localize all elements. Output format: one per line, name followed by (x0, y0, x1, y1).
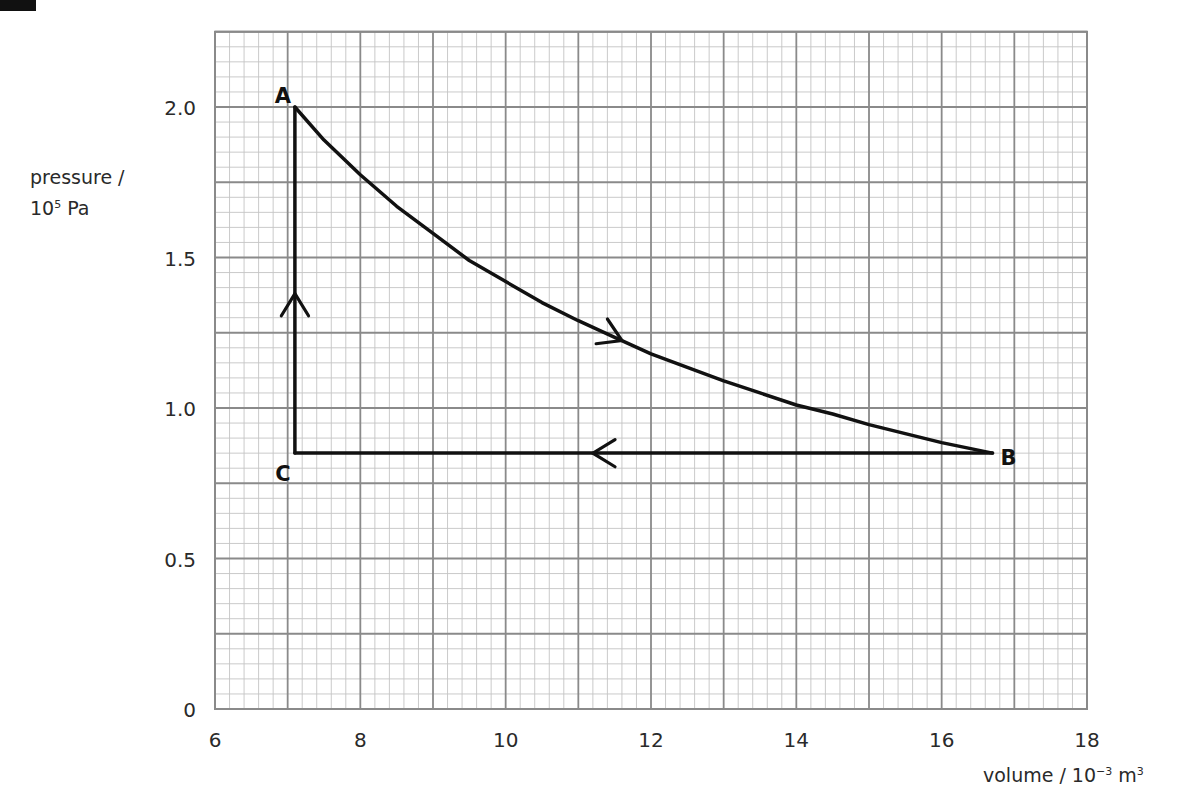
x-tick-label: 18 (1074, 728, 1099, 752)
y-axis-label: pressure / 105 Pa (30, 163, 125, 222)
y-tick-label: 0 (183, 698, 196, 722)
cycle-segment (295, 107, 993, 453)
x-tick-label: 16 (929, 728, 954, 752)
y-axis-label-line1: pressure / (30, 163, 125, 191)
y-tick-label: 0.5 (164, 548, 196, 572)
axis-tick-labels: 68101214161800.51.01.52.0 (164, 96, 1100, 752)
y-tick-label: 2.0 (164, 96, 196, 120)
direction-arrows (281, 294, 622, 467)
x-unit: m (1112, 764, 1137, 786)
x-tick-label: 12 (638, 728, 663, 752)
y-tick-label: 1.0 (164, 397, 196, 421)
y-unit-base: 10 (30, 197, 54, 219)
x-unit-exponent: −3 (1096, 765, 1112, 778)
x-unit-power: 3 (1137, 765, 1144, 778)
x-tick-label: 8 (354, 728, 367, 752)
cycle-path (295, 107, 993, 453)
point-label-c: C (275, 462, 290, 486)
x-tick-label: 6 (209, 728, 222, 752)
y-axis-label-line2: 105 Pa (30, 191, 125, 222)
y-unit: Pa (61, 197, 89, 219)
x-tick-label: 10 (493, 728, 518, 752)
point-label-b: B (1001, 446, 1017, 470)
point-label-a: A (275, 84, 292, 108)
x-tick-label: 14 (784, 728, 809, 752)
x-axis-label: volume / 10−3 m3 (983, 764, 1144, 786)
y-tick-label: 1.5 (164, 247, 196, 271)
point-labels: ABC (275, 84, 1017, 486)
x-unit-base: volume / 10 (983, 764, 1096, 786)
pv-diagram: 68101214161800.51.01.52.0 ABC (0, 0, 1183, 811)
